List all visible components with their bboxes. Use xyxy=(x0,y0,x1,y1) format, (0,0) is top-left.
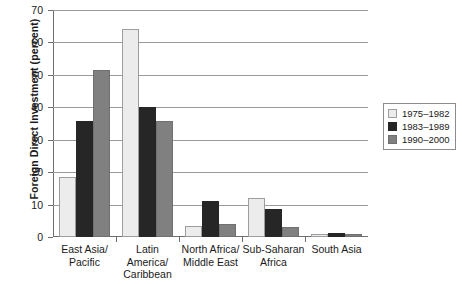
legend-item: 1990–2000 xyxy=(388,133,450,146)
y-tick-label: 60 xyxy=(11,37,43,47)
y-axis-line xyxy=(53,10,54,237)
y-tick-mark xyxy=(48,75,53,76)
legend-swatch xyxy=(388,109,397,118)
y-tick-mark xyxy=(48,237,53,238)
bar-group xyxy=(59,10,110,237)
y-tick-mark xyxy=(48,205,53,206)
y-tick-mark xyxy=(48,107,53,108)
plot-area: 010203040506070 xyxy=(53,10,368,237)
bar xyxy=(345,234,362,237)
x-tick-mark xyxy=(179,237,180,242)
bar xyxy=(93,70,110,237)
legend-item: 1975–1982 xyxy=(388,107,450,120)
chart-legend: 1975–19821983–19891990–2000 xyxy=(383,103,456,150)
bar-group xyxy=(311,10,362,237)
y-tick-label: 20 xyxy=(11,167,43,177)
category-label-line: Caribbean xyxy=(88,268,208,281)
bar xyxy=(282,227,299,237)
bar-group xyxy=(122,10,173,237)
x-tick-mark xyxy=(242,237,243,242)
y-tick-label: 0 xyxy=(11,232,43,242)
legend-swatch xyxy=(388,122,397,131)
legend-item: 1983–1989 xyxy=(388,120,450,133)
chart-figure: Foreign Direct Investment (percent) 0102… xyxy=(0,0,462,284)
bar xyxy=(219,224,236,237)
bar-group xyxy=(248,10,299,237)
y-axis-title: Foreign Direct Investment (percent) xyxy=(28,0,40,229)
category-label-line: South Asia xyxy=(277,243,397,256)
x-tick-mark xyxy=(116,237,117,242)
y-tick-mark xyxy=(48,140,53,141)
y-tick-label: 10 xyxy=(11,200,43,210)
bar xyxy=(122,29,139,237)
y-tick-label: 50 xyxy=(11,70,43,80)
x-axis-category-label: South Asia xyxy=(277,243,397,256)
legend-swatch xyxy=(388,135,397,144)
bar xyxy=(202,201,219,237)
bar xyxy=(139,107,156,237)
bar xyxy=(59,177,76,237)
bar xyxy=(328,233,345,237)
bar xyxy=(156,121,173,237)
legend-label: 1990–2000 xyxy=(402,135,450,145)
bar xyxy=(76,121,93,237)
bar-group xyxy=(185,10,236,237)
bar xyxy=(185,226,202,237)
bar xyxy=(311,234,328,237)
x-tick-mark xyxy=(305,237,306,242)
y-tick-label: 40 xyxy=(11,102,43,112)
legend-label: 1975–1982 xyxy=(402,109,450,119)
y-tick-label: 70 xyxy=(11,5,43,15)
y-tick-mark xyxy=(48,10,53,11)
y-tick-mark xyxy=(48,172,53,173)
category-label-line: Africa xyxy=(214,256,334,269)
bar xyxy=(248,198,265,237)
y-tick-label: 30 xyxy=(11,135,43,145)
legend-label: 1983–1989 xyxy=(402,122,450,132)
bar xyxy=(265,209,282,237)
y-tick-mark xyxy=(48,42,53,43)
